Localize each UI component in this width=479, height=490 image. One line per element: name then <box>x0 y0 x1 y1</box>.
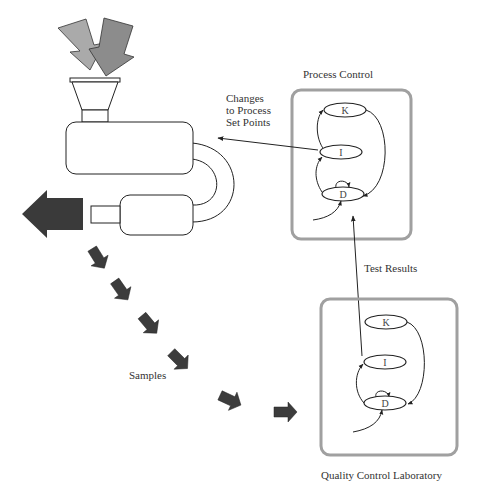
connecting-pipe <box>192 143 234 222</box>
test-results-label: Test Results <box>364 262 417 274</box>
process-diagram: K I D K I D Process Contr <box>0 0 479 490</box>
svg-text:K: K <box>341 105 349 116</box>
pc-node-d: D <box>322 187 364 201</box>
main-drum <box>66 122 193 174</box>
svg-text:I: I <box>383 357 386 368</box>
output-spout <box>91 206 120 223</box>
svg-text:D: D <box>339 189 346 200</box>
test-results-arrow <box>353 216 362 356</box>
qc-node-d: D <box>364 396 406 410</box>
lower-drum <box>120 195 193 235</box>
product-output-arrow <box>22 190 83 238</box>
pc-node-k: K <box>324 103 366 117</box>
quality-control-lab-label: Quality Control Laboratory <box>321 469 442 481</box>
pc-node-i: I <box>320 145 362 159</box>
changes-label-line3: Set Points <box>226 116 270 128</box>
svg-text:I: I <box>339 147 342 158</box>
process-control-box: K I D <box>292 90 411 239</box>
svg-text:K: K <box>382 317 390 328</box>
sample-arrows <box>84 243 297 422</box>
process-control-label: Process Control <box>303 68 373 80</box>
qc-lab-box: K I D <box>321 299 457 455</box>
svg-text:D: D <box>381 398 388 409</box>
qc-node-i: I <box>364 355 406 369</box>
set-points-arrow <box>218 138 318 150</box>
samples-label: Samples <box>129 369 166 381</box>
changes-label-line1: Changes <box>226 92 264 104</box>
changes-label-line2: to Process <box>226 104 271 116</box>
hopper <box>70 78 120 122</box>
qc-node-k: K <box>365 315 407 329</box>
input-material-arrows <box>58 18 134 76</box>
